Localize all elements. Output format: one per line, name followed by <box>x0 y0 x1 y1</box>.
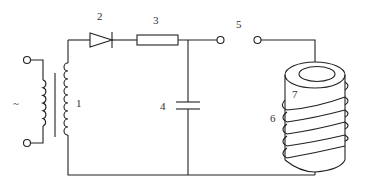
ac-source-symbol: ~ <box>13 97 19 109</box>
ac-input: ~ <box>13 57 43 147</box>
switch <box>217 37 261 44</box>
label-1: 1 <box>76 97 82 109</box>
label-6: 6 <box>270 112 276 124</box>
input-terminal-bottom <box>24 140 31 147</box>
primary-winding <box>43 80 46 126</box>
label-2: 2 <box>97 10 103 22</box>
label-7: 7 <box>292 88 298 100</box>
resistor <box>137 35 178 45</box>
label-3: 3 <box>153 14 159 26</box>
label-4: 4 <box>160 100 166 112</box>
capacitor <box>176 102 200 109</box>
circuit-diagram: ~ 1 2 3 4 5 <box>0 0 367 190</box>
core-hole <box>299 67 335 82</box>
diode <box>90 32 112 48</box>
coil-winding <box>287 97 345 158</box>
secondary-winding <box>64 63 68 135</box>
input-terminal-top <box>24 57 31 64</box>
core-top <box>285 62 345 88</box>
coil-with-core <box>282 62 348 175</box>
label-5: 5 <box>236 18 242 30</box>
